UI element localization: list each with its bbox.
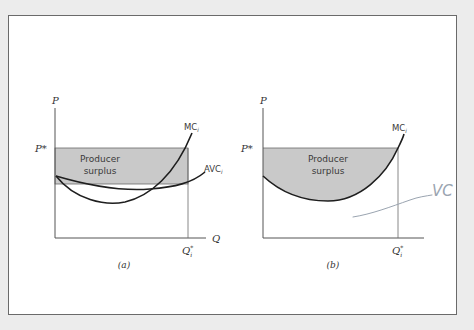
panel-a-x-axis-label: Q (212, 233, 220, 244)
panel-a: P P* Q Q*i Producer surplus MCi AVCi (a) (34, 95, 223, 270)
annotation-text: VC (432, 182, 453, 200)
panel-a-y-axis-label: P (51, 95, 59, 106)
panel-b-quantity-label: Q*i (392, 244, 403, 258)
panel-a-avc-label: AVCi (204, 164, 223, 175)
annotation-stroke (353, 195, 432, 217)
panel-a-surplus-area (55, 148, 188, 184)
panel-a-mc-label: MCi (184, 122, 199, 133)
panel-a-price-label: P* (34, 143, 47, 154)
page: P P* Q Q*i Producer surplus MCi AVCi (a) (0, 0, 474, 330)
panel-b-caption: (b) (327, 260, 340, 270)
panel-a-caption: (a) (118, 260, 131, 270)
panel-a-surplus-label-line1: Producer (80, 154, 120, 164)
panel-a-surplus-label-line2: surplus (84, 166, 117, 176)
panel-b-surplus-label-line2: surplus (312, 166, 345, 176)
panel-b-price-label: P* (240, 143, 253, 154)
panel-a-quantity-label: Q*i (182, 244, 193, 258)
panel-b-y-axis-label: P (259, 95, 267, 106)
panel-b-surplus-label-line1: Producer (308, 154, 348, 164)
panel-b-mc-label: MCi (392, 123, 407, 134)
panel-b: P P* Q*i Producer surplus MCi (b) (240, 95, 424, 270)
producer-surplus-figure: P P* Q Q*i Producer surplus MCi AVCi (a) (0, 0, 474, 330)
